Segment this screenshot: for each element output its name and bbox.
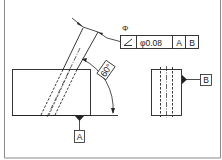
datum-a-label: A bbox=[77, 132, 83, 142]
angled-hole bbox=[41, 28, 98, 117]
datum-b-label: B bbox=[203, 75, 209, 85]
tolerance-value: φ0.08 bbox=[140, 38, 162, 48]
page-border bbox=[5, 0, 221, 158]
angle-label: 60° bbox=[97, 60, 115, 79]
datum-ref-primary: A bbox=[176, 38, 182, 48]
side-view bbox=[152, 66, 182, 118]
gdt-drawing: 60° Φ φ0.08 A B A B bbox=[0, 0, 222, 160]
datum-b-feature-symbol: B bbox=[182, 75, 212, 86]
diameter-symbol-label: Φ bbox=[122, 24, 128, 33]
datum-ref-secondary: B bbox=[189, 38, 195, 48]
fcf-leader bbox=[72, 18, 120, 42]
datum-a-feature-symbol: A bbox=[75, 116, 85, 143]
